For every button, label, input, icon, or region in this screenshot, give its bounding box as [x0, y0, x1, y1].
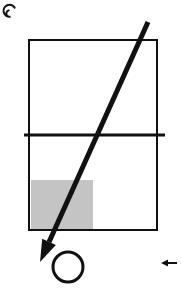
- diagram-canvas: [0, 0, 181, 302]
- diagram-figure: [0, 0, 181, 302]
- shaded-region: [31, 180, 93, 229]
